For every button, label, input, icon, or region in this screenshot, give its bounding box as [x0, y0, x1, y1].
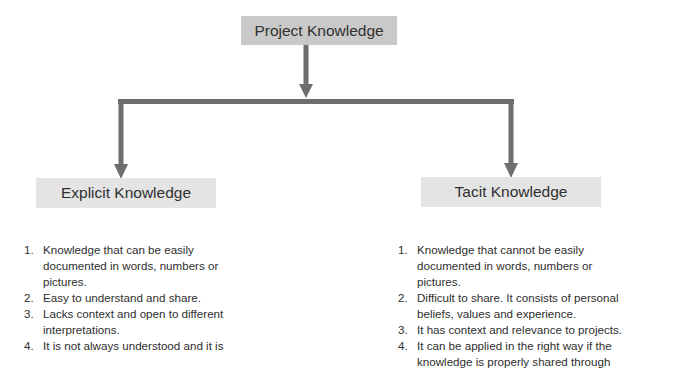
item-number: 1.	[24, 242, 34, 258]
list-item: 1. Knowledge that can be easily document…	[24, 242, 234, 290]
right-drop-line	[509, 99, 514, 164]
list-item: 1. Knowledge that cannot be easily docum…	[398, 242, 638, 290]
list-item: 3. Lacks context and open to different i…	[24, 306, 234, 338]
tacit-knowledge-list: 1. Knowledge that cannot be easily docum…	[398, 242, 638, 370]
item-text: It has context and relevance to projects…	[417, 323, 622, 336]
item-text: It can be applied in the right way if th…	[417, 339, 612, 368]
item-number: 2.	[24, 290, 34, 306]
list-item: 4. It is not always understood and it is	[24, 338, 234, 354]
item-number: 4.	[398, 338, 408, 354]
item-number: 1.	[398, 242, 408, 258]
explicit-knowledge-box: Explicit Knowledge	[36, 178, 216, 208]
horizontal-connector-line	[118, 99, 514, 104]
left-drop-line	[119, 99, 124, 165]
item-text: Difficult to share. It consists of perso…	[417, 291, 618, 320]
explicit-knowledge-list: 1. Knowledge that can be easily document…	[24, 242, 234, 354]
item-number: 3.	[398, 322, 408, 338]
item-text: Easy to understand and share.	[43, 291, 201, 304]
list-item: 4. It can be applied in the right way if…	[398, 338, 638, 370]
list-item: 2. Easy to understand and share.	[24, 290, 234, 306]
item-number: 2.	[398, 290, 408, 306]
item-text: It is not always understood and it is	[43, 339, 223, 352]
item-number: 3.	[24, 306, 34, 322]
root-arrow-head	[299, 84, 313, 98]
list-item: 2. Difficult to share. It consists of pe…	[398, 290, 638, 322]
tacit-knowledge-box: Tacit Knowledge	[421, 177, 601, 207]
project-knowledge-box: Project Knowledge	[241, 16, 397, 45]
explicit-knowledge-label: Explicit Knowledge	[61, 184, 191, 202]
root-stem-line	[304, 45, 309, 85]
item-text: Knowledge that cannot be easily document…	[417, 243, 592, 288]
item-text: Knowledge that can be easily documented …	[43, 243, 218, 288]
right-arrow-head	[504, 163, 518, 178]
list-item: 3. It has context and relevance to proje…	[398, 322, 638, 338]
tacit-knowledge-label: Tacit Knowledge	[455, 183, 568, 201]
item-text: Lacks context and open to different inte…	[43, 307, 223, 336]
project-knowledge-label: Project Knowledge	[254, 22, 383, 40]
left-arrow-head	[114, 164, 128, 179]
item-number: 4.	[24, 338, 34, 354]
